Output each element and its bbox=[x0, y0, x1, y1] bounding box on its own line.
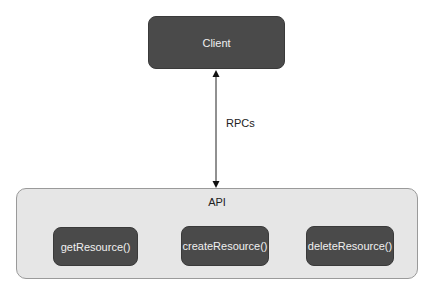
get-resource-label: getResource() bbox=[61, 241, 131, 253]
rpc-edge-label: RPCs bbox=[226, 117, 255, 129]
delete-resource-node: deleteResource() bbox=[306, 226, 394, 266]
create-resource-node: createResource() bbox=[181, 226, 269, 266]
get-resource-node: getResource() bbox=[53, 227, 138, 266]
arrow-head-up-icon bbox=[213, 70, 220, 77]
api-label: API bbox=[17, 196, 417, 208]
arrow-head-down-icon bbox=[213, 181, 220, 188]
create-resource-label: createResource() bbox=[183, 240, 268, 252]
api-container: API getResource() createResource() delet… bbox=[16, 188, 418, 279]
delete-resource-label: deleteResource() bbox=[308, 240, 392, 252]
